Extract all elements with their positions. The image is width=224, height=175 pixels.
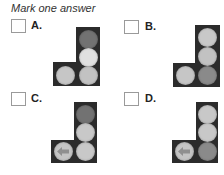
option-c-label[interactable]: C. [31,92,42,104]
middle-lamp-icon [76,123,95,142]
bottom-right-lamp-icon [198,142,217,161]
question-prompt: Mark one answer [11,2,95,14]
option-b-traffic-signal-image [173,25,220,87]
option-c-checkbox[interactable] [11,92,26,106]
top-lamp-icon [79,30,98,49]
option-b-label[interactable]: B. [145,20,156,32]
option-a-label[interactable]: A. [31,19,42,31]
option-a-checkbox[interactable] [11,19,26,33]
option-a-traffic-signal-image [53,27,100,86]
bottom-right-lamp-icon [198,66,217,85]
bottom-left-arrow-lamp-icon [54,142,73,161]
middle-lamp-icon [198,123,217,142]
option-d-label[interactable]: D. [145,92,156,104]
bottom-right-lamp-icon [79,66,98,85]
bottom-left-lamp-icon [56,66,75,85]
bottom-right-lamp-icon [76,142,95,161]
middle-lamp-icon [79,48,98,67]
option-d-traffic-signal-image [172,102,218,163]
left-arrow-icon [175,142,194,161]
option-c-traffic-signal-image [51,102,97,163]
top-lamp-icon [198,105,217,124]
option-b-checkbox[interactable] [124,20,139,34]
bottom-left-lamp-icon [176,66,195,85]
option-d-checkbox[interactable] [124,92,139,106]
middle-lamp-icon [198,47,217,66]
top-lamp-icon [198,28,217,47]
left-arrow-icon [54,142,73,161]
top-lamp-icon [76,105,95,124]
bottom-left-arrow-lamp-icon [175,142,194,161]
